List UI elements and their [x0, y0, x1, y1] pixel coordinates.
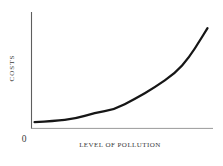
x-axis-label: LEVEL OF POLLUTION — [79, 141, 161, 149]
origin-label: 0 — [22, 134, 27, 144]
cost-curve — [35, 28, 208, 122]
y-axis-label: COSTS — [8, 55, 16, 82]
pollution-cost-chart: COSTS 0 LEVEL OF POLLUTION — [0, 0, 223, 166]
